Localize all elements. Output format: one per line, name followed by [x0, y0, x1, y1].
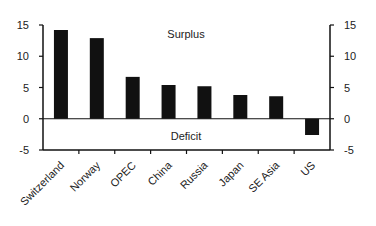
left-y-tick-label: -5 [19, 144, 29, 156]
bar [233, 95, 247, 119]
right-y-tick-label: 10 [344, 50, 356, 62]
bar [54, 30, 68, 119]
bar [162, 85, 176, 119]
plot-area: -5051015-5051015SwitzerlandNorwayOPECChi… [17, 19, 357, 208]
right-y-tick-label: 15 [344, 19, 356, 31]
category-label: US [298, 159, 317, 178]
category-label: Switzerland [18, 159, 67, 208]
left-y-tick-label: 5 [23, 82, 29, 94]
bar [269, 96, 283, 119]
bar [197, 86, 211, 119]
right-y-tick-label: 5 [344, 82, 350, 94]
left-y-tick-label: 0 [23, 113, 29, 125]
bar [305, 119, 319, 135]
category-label: SE Asia [246, 158, 282, 194]
right-y-tick-label: 0 [344, 113, 350, 125]
right-y-tick-label: -5 [344, 144, 354, 156]
category-label: Norway [67, 159, 102, 194]
category-label: OPEC [108, 159, 139, 190]
surplus-annotation: Surplus [167, 28, 205, 40]
bar [126, 77, 140, 119]
category-label: China [145, 158, 174, 187]
left-y-tick-label: 10 [17, 50, 29, 62]
deficit-annotation: Deficit [171, 130, 202, 142]
left-y-tick-label: 15 [17, 19, 29, 31]
category-label: Russia [178, 158, 211, 191]
bar [90, 38, 104, 119]
bar-chart: -5051015-5051015SwitzerlandNorwayOPECChi… [0, 0, 376, 226]
category-label: Japan [216, 159, 246, 189]
